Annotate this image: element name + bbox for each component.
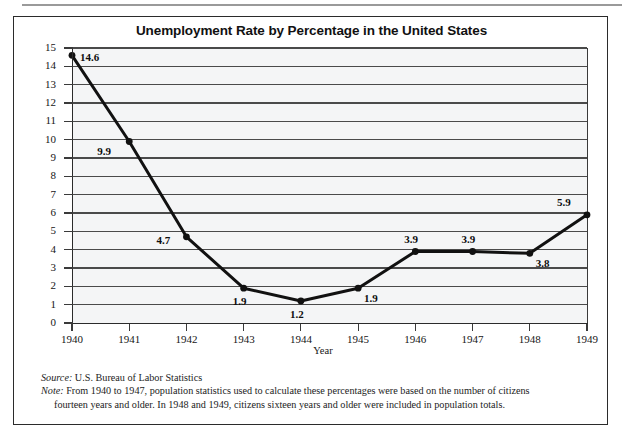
x-axis-tick-label: 1943 [214,333,274,345]
page-top-rule [22,4,622,6]
x-axis-tick [415,324,416,331]
x-axis-tick-label: 1948 [500,333,560,345]
y-axis-line [72,48,73,323]
y-axis-tick-label: 5 [16,225,56,236]
y-axis-tick [64,102,73,103]
x-axis-tick-label: 1945 [328,333,388,345]
note-text-continued: fourteen years and older. In 1948 and 19… [41,398,593,411]
data-point-marker [183,233,190,240]
y-axis-tick [64,304,73,305]
x-axis-tick [186,324,187,331]
y-axis-tick-label: 4 [16,244,56,255]
chart-title: Unemployment Rate by Percentage in the U… [14,23,609,38]
y-axis-tick-label: 14 [16,60,56,71]
x-axis-tick [300,324,301,331]
source-text: U.S. Bureau of Labor Statistics [72,372,202,383]
x-axis-tick-label: 1947 [443,333,503,345]
y-axis-tick [64,84,73,85]
data-point-label: 14.6 [80,51,99,63]
y-axis-tick-label: 6 [16,207,56,218]
figure-frame: Unemployment Rate by Percentage in the U… [13,16,608,425]
y-axis-tick [64,66,73,67]
data-point-label: 4.7 [156,234,170,246]
y-axis-tick [64,231,73,232]
y-axis-tick-label: 12 [16,97,56,108]
note-text: From 1940 to 1947, population statistics… [64,385,530,396]
data-point-marker [584,211,591,218]
y-axis-tick-label: 7 [16,189,56,200]
y-axis-tick-label: 8 [16,170,56,181]
data-point-label: 1.9 [364,292,378,304]
y-axis-tick [64,286,73,287]
y-axis-tick [64,121,73,122]
data-point-label: 9.9 [97,145,111,157]
data-point-marker [526,250,533,257]
source-label: Source: [41,372,72,383]
x-axis-tick [472,324,473,331]
y-axis-tick [64,157,73,158]
plot-wrapper: Percentage 1514131211109876543210 194019… [59,48,587,340]
data-point-marker [469,248,476,255]
x-axis-tick [358,324,359,331]
data-point-label: 5.9 [557,196,571,208]
explanatory-note: Note: From 1940 to 1947, population stat… [41,384,593,411]
x-axis-tick-label: 1941 [99,333,159,345]
y-axis-tick [64,267,73,268]
x-axis-tick-label: 1944 [271,333,331,345]
y-axis-tick [64,176,73,177]
y-axis-tick-label: 1 [16,299,56,310]
y-axis-tick [64,212,73,213]
y-axis-tick [64,249,73,250]
y-axis-tick-label: 10 [16,134,56,145]
y-axis-tick [64,139,73,140]
note-label: Note: [41,385,64,396]
figure-notes: Source: U.S. Bureau of Labor Statistics … [41,371,593,411]
x-axis-tick-label: 1942 [156,333,216,345]
x-axis-tick-label: 1940 [42,333,102,345]
data-point-marker [240,285,247,292]
x-axis-tick [129,324,130,331]
data-point-marker [297,298,304,305]
y-axis-tick-label: 9 [16,152,56,163]
data-point-marker [412,248,419,255]
data-point-label: 1.9 [233,295,247,307]
data-point-marker [126,138,133,145]
plot-area [72,48,588,323]
y-axis-tick-label: 0 [16,317,56,328]
x-axis-tick [529,324,530,331]
x-axis-tick [243,324,244,331]
x-axis-tick-label: 1946 [385,333,445,345]
y-axis-tick-label: 15 [16,42,56,53]
data-point-label: 3.9 [404,233,418,245]
source-note: Source: U.S. Bureau of Labor Statistics [41,371,593,384]
x-axis-tick [71,324,72,331]
data-point-marker [355,285,362,292]
y-axis-tick [64,194,73,195]
y-axis-tick-label: 13 [16,79,56,90]
x-axis-title: Year [59,345,587,356]
unemployment-rate-line-series [72,48,587,323]
x-axis-tick-label: 1949 [557,333,617,345]
x-axis-line [72,323,588,324]
data-point-label: 3.9 [462,233,476,245]
y-axis-tick-label: 11 [16,115,56,126]
data-point-label: 1.2 [290,308,304,320]
y-axis-tick-label: 2 [16,280,56,291]
y-axis-tick [64,47,73,48]
y-axis-tick-label: 3 [16,262,56,273]
data-point-label: 3.8 [536,257,550,269]
x-axis-tick [586,324,587,331]
series-line [72,55,587,301]
